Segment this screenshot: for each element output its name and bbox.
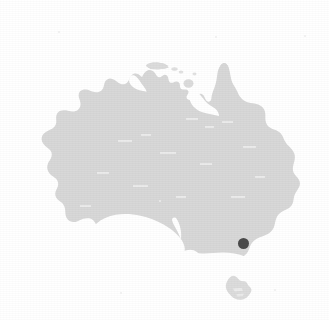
locality-marker-dot xyxy=(238,238,249,249)
islet-north-b xyxy=(179,71,184,74)
islet-north-a xyxy=(171,67,177,71)
australia-locality-map xyxy=(0,0,329,320)
island-groote-eylandt xyxy=(184,79,194,87)
bass-strait-water xyxy=(184,251,260,268)
map-canvas xyxy=(0,0,329,320)
islet-north-c xyxy=(193,73,197,76)
